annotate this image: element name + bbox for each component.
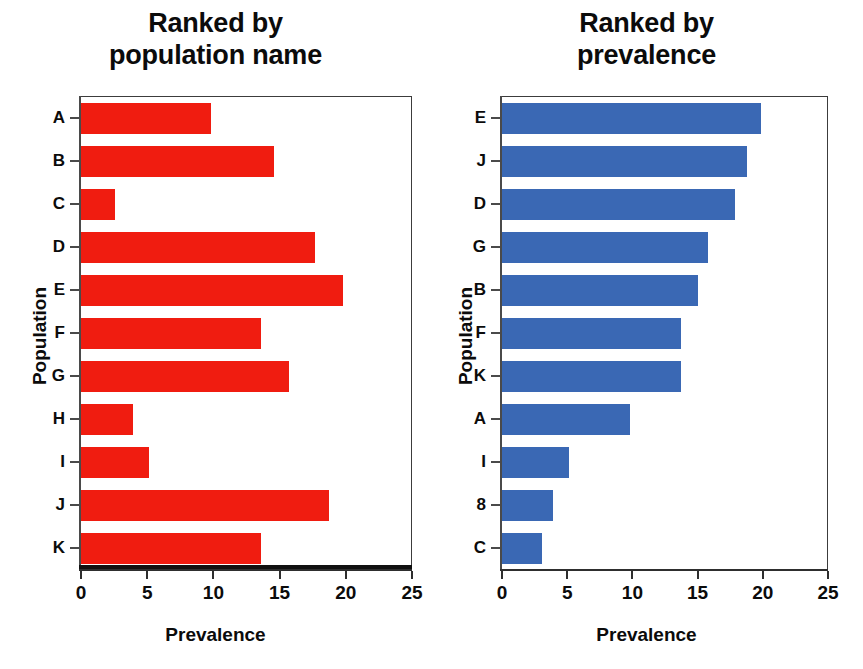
bar-G bbox=[502, 232, 708, 262]
y-tick bbox=[70, 375, 79, 377]
bar-row bbox=[81, 361, 411, 391]
figure-root: Ranked by population name ABCDEFGHIJK 05… bbox=[0, 0, 863, 669]
bar-series-left bbox=[81, 97, 411, 569]
y-tick bbox=[491, 160, 500, 162]
x-tick-label-5: 5 bbox=[562, 582, 573, 604]
bar-I bbox=[502, 447, 569, 477]
y-tick-label-A: A bbox=[450, 409, 486, 429]
panel-title-right: Ranked by prevalence bbox=[431, 8, 862, 72]
bar-row bbox=[81, 232, 411, 262]
y-tick bbox=[70, 117, 79, 119]
bar-B bbox=[502, 275, 698, 305]
x-axis-line bbox=[500, 569, 828, 571]
bar-row bbox=[81, 189, 411, 219]
bar-row bbox=[81, 275, 411, 305]
panel-title-left-line2: population name bbox=[0, 40, 431, 72]
x-tick-label-0: 0 bbox=[497, 582, 508, 604]
x-tick-label-10: 10 bbox=[203, 582, 224, 604]
y-tick bbox=[70, 246, 79, 248]
bar-row bbox=[502, 447, 827, 477]
bar-G bbox=[81, 361, 289, 391]
x-tick bbox=[279, 571, 281, 579]
y-tick bbox=[70, 418, 79, 420]
bar-E bbox=[81, 275, 343, 305]
bar-I bbox=[81, 447, 149, 477]
y-tick bbox=[70, 203, 79, 205]
x-tick-label-25: 25 bbox=[401, 582, 422, 604]
bar-A bbox=[502, 404, 630, 434]
x-tick bbox=[80, 571, 82, 579]
bar-row bbox=[502, 361, 827, 391]
y-tick bbox=[491, 375, 500, 377]
x-tick-label-5: 5 bbox=[142, 582, 153, 604]
y-tick-label-C: C bbox=[450, 538, 486, 558]
bar-row bbox=[502, 490, 827, 520]
y-axis-title-left: Population bbox=[29, 276, 51, 396]
y-tick bbox=[70, 332, 79, 334]
panel-ranked-by-prevalence: Ranked by prevalence EJDGBFKAI8C 0510152… bbox=[431, 0, 862, 669]
x-tick-label-25: 25 bbox=[817, 582, 838, 604]
bar-series-right bbox=[502, 97, 827, 569]
bar-B bbox=[81, 146, 274, 176]
bar-C bbox=[81, 189, 115, 219]
y-tick-label-B: B bbox=[29, 151, 65, 171]
x-axis-title-left: Prevalence bbox=[0, 624, 431, 646]
x-tick-label-20: 20 bbox=[335, 582, 356, 604]
panel-title-right-line1: Ranked by bbox=[431, 8, 862, 40]
y-axis-title-right: Population bbox=[455, 276, 477, 396]
plot-area-right bbox=[502, 96, 828, 569]
panel-title-left-line1: Ranked by bbox=[0, 8, 431, 40]
bar-row bbox=[81, 404, 411, 434]
x-tick bbox=[827, 571, 829, 579]
x-tick-label-15: 15 bbox=[269, 582, 290, 604]
y-tick bbox=[70, 289, 79, 291]
bar-F bbox=[502, 318, 681, 348]
y-tick bbox=[491, 117, 500, 119]
y-tick bbox=[70, 547, 79, 549]
bar-row bbox=[81, 103, 411, 133]
y-tick-label-A: A bbox=[29, 108, 65, 128]
y-tick-label-D: D bbox=[450, 194, 486, 214]
x-tick bbox=[631, 571, 633, 579]
y-tick bbox=[491, 418, 500, 420]
y-tick bbox=[70, 504, 79, 506]
bar-row bbox=[502, 146, 827, 176]
bar-H bbox=[81, 404, 133, 434]
x-tick bbox=[762, 571, 764, 579]
y-tick-label-8: 8 bbox=[450, 495, 486, 515]
bar-K bbox=[502, 361, 681, 391]
bar-D bbox=[502, 189, 735, 219]
x-tick bbox=[212, 571, 214, 579]
bar-F bbox=[81, 318, 261, 348]
panel-title-left: Ranked by population name bbox=[0, 8, 431, 72]
y-tick-label-E: E bbox=[450, 108, 486, 128]
bar-J bbox=[81, 490, 329, 520]
bar-A bbox=[81, 103, 211, 133]
y-tick bbox=[491, 246, 500, 248]
x-tick-label-10: 10 bbox=[622, 582, 643, 604]
bar-C bbox=[502, 533, 542, 563]
y-tick bbox=[70, 160, 79, 162]
bar-row bbox=[502, 103, 827, 133]
y-tick bbox=[491, 203, 500, 205]
x-tick bbox=[697, 571, 699, 579]
y-tick-label-I: I bbox=[29, 452, 65, 472]
bar-row bbox=[81, 318, 411, 348]
y-tick-label-H: H bbox=[29, 409, 65, 429]
y-tick bbox=[491, 332, 500, 334]
x-axis-line bbox=[79, 569, 412, 571]
bar-D bbox=[81, 232, 315, 262]
x-tick bbox=[345, 571, 347, 579]
x-tick-label-0: 0 bbox=[76, 582, 87, 604]
bar-row bbox=[502, 404, 827, 434]
bar-row bbox=[81, 447, 411, 477]
panel-title-right-line2: prevalence bbox=[431, 40, 862, 72]
x-tick bbox=[411, 571, 413, 579]
bar-row bbox=[502, 189, 827, 219]
x-tick bbox=[566, 571, 568, 579]
panel-ranked-by-population-name: Ranked by population name ABCDEFGHIJK 05… bbox=[0, 0, 431, 669]
x-tick bbox=[146, 571, 148, 579]
y-tick-label-K: K bbox=[29, 538, 65, 558]
x-tick-label-20: 20 bbox=[752, 582, 773, 604]
y-tick bbox=[491, 461, 500, 463]
